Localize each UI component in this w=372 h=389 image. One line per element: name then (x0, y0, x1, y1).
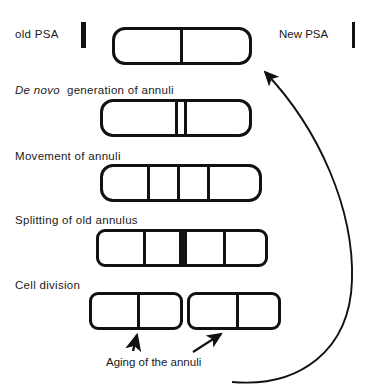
annulus-divider (236, 295, 239, 327)
new-psa-label: New PSA (279, 28, 328, 40)
cell-stage-old-psa (112, 27, 252, 65)
new-psa-marker-icon (352, 22, 355, 48)
stage-label-de-novo-italic: De novo (15, 84, 60, 96)
annulus-divider (175, 102, 178, 134)
old-annulus-thick-bar (179, 232, 187, 264)
cell-stage-movement (100, 164, 262, 202)
annulus-divider (147, 167, 150, 199)
old-psa-marker-icon (81, 22, 86, 48)
stage-label-de-novo: De novo generation of annuli (15, 84, 174, 96)
stage-label-old-psa: old PSA (15, 28, 59, 40)
aging-arrow-right (193, 334, 221, 352)
stage-label-movement: Movement of annuli (15, 150, 121, 162)
stage-label-splitting: Splitting of old annulus (15, 214, 138, 226)
annulus-divider (223, 232, 226, 264)
cell-stage-splitting (96, 229, 268, 267)
cell-stage-de-novo (100, 99, 252, 137)
annulus-divider (207, 167, 210, 199)
aging-arrow-left (133, 335, 137, 351)
annulus-divider (143, 232, 146, 264)
annulus-divider-new (184, 102, 187, 134)
daughter-cell-left (89, 292, 183, 330)
annulus-divider (137, 295, 140, 327)
annulus-divider (180, 30, 183, 62)
stage-label-de-novo-rest: generation of annuli (67, 84, 174, 96)
aging-of-annuli-caption: Aging of the annuli (106, 356, 201, 368)
annulus-divider (177, 167, 180, 199)
stage-label-cell-division: Cell division (15, 279, 80, 291)
daughter-cell-right (187, 292, 281, 330)
